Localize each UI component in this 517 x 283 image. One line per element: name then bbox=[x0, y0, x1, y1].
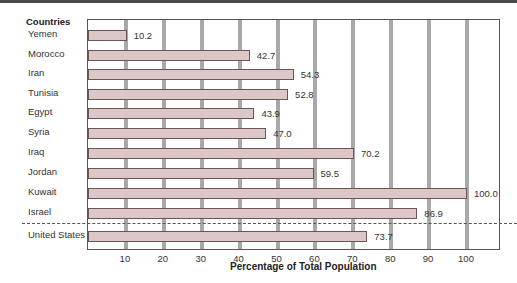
bar-value-label: 54.3 bbox=[301, 69, 320, 80]
bar-value-label: 70.2 bbox=[361, 148, 380, 159]
x-axis-label: Percentage of Total Population bbox=[230, 261, 377, 272]
bar bbox=[88, 231, 367, 242]
bar bbox=[88, 128, 266, 139]
category-label: Morocco bbox=[28, 48, 64, 59]
bar bbox=[88, 188, 467, 199]
bar-value-label: 52.8 bbox=[295, 89, 314, 100]
bar-value-label: 59.5 bbox=[321, 168, 340, 179]
bar-value-label: 10.2 bbox=[134, 30, 153, 41]
category-label: Tunisia bbox=[28, 87, 58, 98]
category-label: United States bbox=[28, 229, 85, 240]
bar-value-label: 86.9 bbox=[424, 208, 443, 219]
x-tick-label: 10 bbox=[120, 253, 131, 264]
category-label: Jordan bbox=[28, 166, 57, 177]
top-rule bbox=[0, 0, 517, 3]
bar bbox=[88, 89, 288, 100]
category-label: Iraq bbox=[28, 146, 44, 157]
category-label: Israel bbox=[28, 206, 51, 217]
bar bbox=[88, 168, 314, 179]
bar-value-label: 73.7 bbox=[374, 231, 393, 242]
category-label: Yemen bbox=[28, 28, 57, 39]
category-label: Egypt bbox=[28, 106, 52, 117]
bar bbox=[88, 69, 294, 80]
y-axis-header: Countries bbox=[26, 16, 70, 27]
category-label: Iran bbox=[28, 67, 44, 78]
bar-value-label: 100.0 bbox=[474, 188, 498, 199]
x-tick-label: 80 bbox=[385, 253, 396, 264]
category-label: Syria bbox=[28, 126, 50, 137]
x-tick-label: 30 bbox=[195, 253, 206, 264]
category-label: Kuwait bbox=[28, 186, 57, 197]
x-tick-label: 90 bbox=[423, 253, 434, 264]
bar bbox=[88, 208, 417, 219]
bar bbox=[88, 108, 254, 119]
bar bbox=[88, 30, 127, 41]
x-tick-label: 100 bbox=[458, 253, 474, 264]
plot-area: 10.242.754.352.843.947.070.259.5100.086.… bbox=[87, 19, 500, 250]
x-tick-label: 20 bbox=[158, 253, 169, 264]
bar-value-label: 47.0 bbox=[273, 128, 292, 139]
bar-value-label: 42.7 bbox=[257, 50, 276, 61]
separator-dashed-line bbox=[22, 223, 517, 224]
bar-value-label: 43.9 bbox=[261, 108, 280, 119]
bar bbox=[88, 50, 250, 61]
bar bbox=[88, 148, 354, 159]
gridline bbox=[465, 20, 469, 249]
